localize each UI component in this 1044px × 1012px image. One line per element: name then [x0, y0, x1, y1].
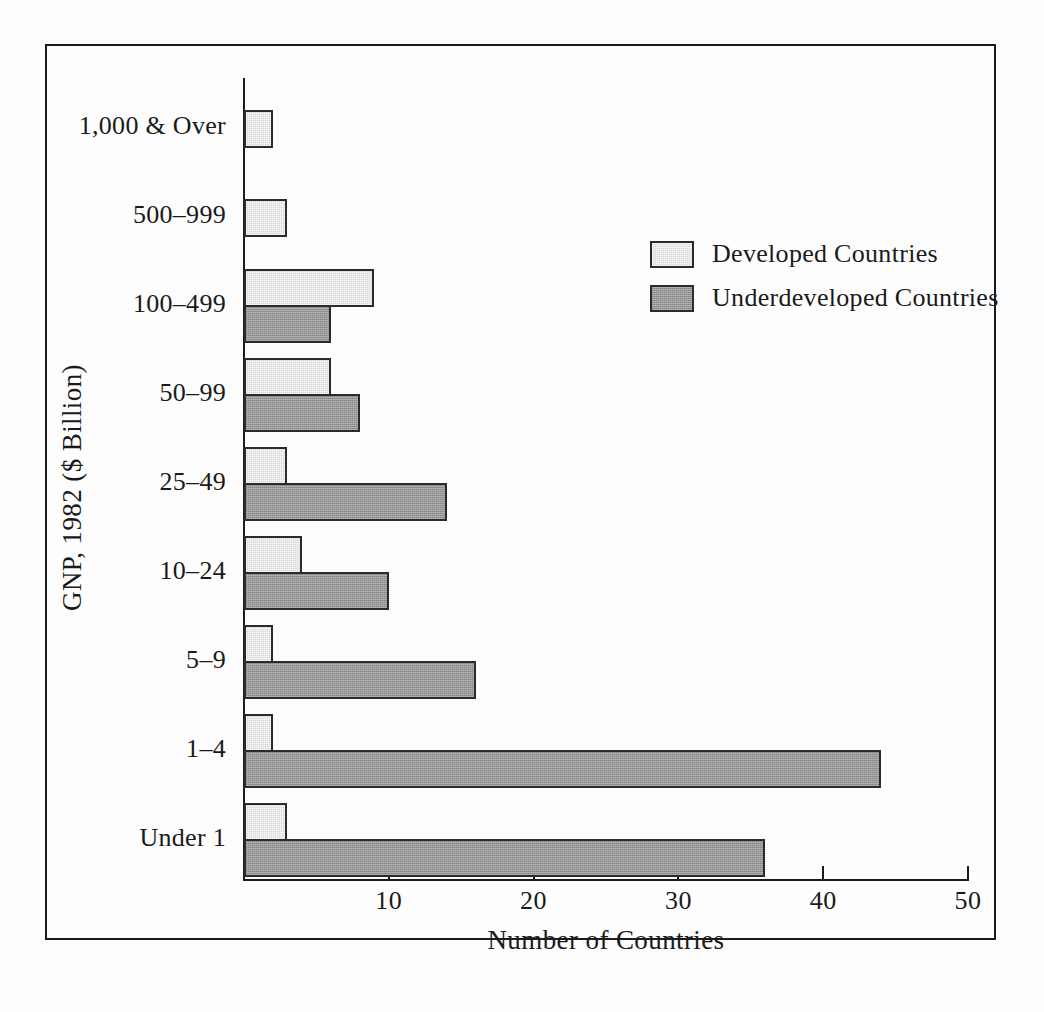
- bar-developed: [244, 625, 273, 663]
- y-axis-category-label: Under 1: [0, 823, 226, 853]
- chart-legend: Developed Countries Underdeveloped Count…: [650, 232, 999, 320]
- bar-developed: [244, 447, 287, 485]
- bar-underdeveloped: [244, 305, 331, 343]
- bar-underdeveloped: [244, 483, 447, 521]
- bar-underdeveloped: [244, 572, 389, 610]
- legend-label-developed: Developed Countries: [712, 239, 938, 269]
- bar-developed: [244, 803, 287, 841]
- y-axis-category-label: 10–24: [0, 556, 226, 586]
- legend-item-developed: Developed Countries: [650, 232, 999, 276]
- bar-underdeveloped: [244, 394, 360, 432]
- bar-developed: [244, 269, 374, 307]
- bar-underdeveloped: [244, 750, 881, 788]
- legend-label-underdeveloped: Underdeveloped Countries: [712, 283, 999, 313]
- figure-root: 1020304050 1,000 & Over500–999100–49950–…: [0, 0, 1044, 1012]
- legend-swatch-developed-icon: [650, 241, 694, 268]
- y-axis-category-label: 100–499: [0, 289, 226, 319]
- y-axis-category-label: 5–9: [0, 645, 226, 675]
- x-axis-tick-label: 10: [359, 886, 419, 916]
- y-axis-title: GNP, 1982 ($ Billion): [57, 188, 88, 788]
- bar-underdeveloped: [244, 661, 476, 699]
- x-axis-tick-label: 50: [938, 886, 998, 916]
- y-axis-category-label: 500–999: [0, 200, 226, 230]
- bar-developed: [244, 110, 273, 148]
- x-axis-line: [243, 879, 969, 881]
- x-axis-tick-label: 40: [793, 886, 853, 916]
- x-axis-tick: [967, 866, 969, 880]
- x-axis-tick-label: 30: [648, 886, 708, 916]
- y-axis-category-label: 1,000 & Over: [0, 111, 226, 141]
- bar-chart-plot-area: 1020304050 1,000 & Over500–999100–49950–…: [0, 0, 1044, 1012]
- bar-developed: [244, 199, 287, 237]
- x-axis-title: Number of Countries: [243, 925, 969, 956]
- legend-swatch-underdeveloped-icon: [650, 285, 694, 312]
- bar-underdeveloped: [244, 839, 765, 877]
- y-axis-category-label: 50–99: [0, 378, 226, 408]
- bar-developed: [244, 714, 273, 752]
- y-axis-category-label: 1–4: [0, 734, 226, 764]
- y-axis-category-label: 25–49: [0, 467, 226, 497]
- x-axis-tick-label: 20: [504, 886, 564, 916]
- bar-developed: [244, 358, 331, 396]
- legend-item-underdeveloped: Underdeveloped Countries: [650, 276, 999, 320]
- bar-developed: [244, 536, 302, 574]
- x-axis-tick: [822, 866, 824, 880]
